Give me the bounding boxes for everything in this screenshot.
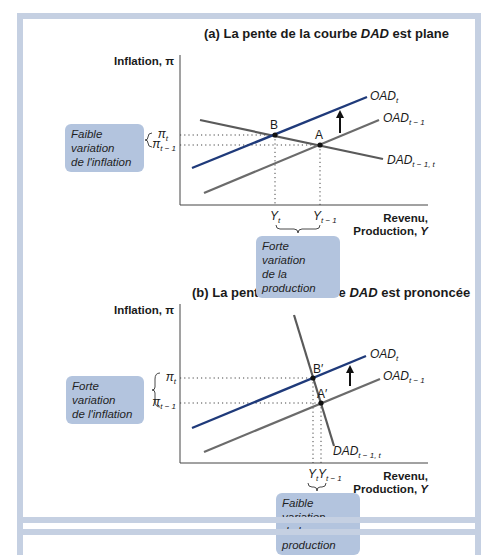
note-line: de la production bbox=[262, 267, 334, 295]
panel-b-production-brace bbox=[308, 483, 326, 491]
panel-b-arrow-head-icon bbox=[346, 365, 354, 373]
panel-b-point-a bbox=[318, 400, 323, 405]
panel-b-y-axis-label: Inflation, π bbox=[114, 304, 174, 316]
panel-a-point-b bbox=[272, 132, 277, 137]
panel-b-x-axis-label-1: Revenu, bbox=[383, 470, 428, 482]
panel-b-y-t1-tick: Yt − 1 bbox=[318, 467, 342, 483]
panel-b-oad-t1-label: OADt − 1 bbox=[383, 369, 425, 385]
panel-b-point-b bbox=[310, 375, 315, 380]
panel-b-inflation-note: Forte variation de l'inflation bbox=[66, 376, 144, 424]
panel-b: (b) La pente de la courbe DAD est pronon… bbox=[114, 285, 470, 495]
note-line: Faible variation bbox=[71, 127, 138, 155]
panel-a-oad-t1-label: OADt − 1 bbox=[383, 111, 425, 127]
panel-a-production-note: Forte variation de la production bbox=[256, 236, 340, 298]
panel-b-oad-t-label: OADt bbox=[370, 347, 399, 363]
panel-b-dad-curve bbox=[294, 315, 334, 446]
panel-a-inflation-note: Faible variation de l'inflation bbox=[65, 124, 144, 172]
panel-b-point-a-label: A′ bbox=[317, 387, 328, 401]
panel-a-arrow-head-icon bbox=[336, 110, 344, 118]
panel-a-point-a bbox=[317, 142, 322, 147]
panel-a-oad-t1-curve bbox=[204, 120, 379, 193]
panel-a-y-axis-label: Inflation, π bbox=[114, 55, 174, 67]
panel-a-inflation-brace bbox=[145, 133, 152, 147]
panel-a: (a) La pente de la courbe DAD est plane … bbox=[114, 26, 449, 237]
panel-b-dad-label: DADt − 1, t bbox=[333, 444, 382, 460]
panel-a-y-t-tick: Yt bbox=[270, 209, 281, 225]
panel-b-x-axis-label-2: Production, Y bbox=[353, 483, 429, 495]
panel-a-production-brace bbox=[276, 225, 320, 233]
panel-a-point-a-label: A bbox=[315, 128, 323, 142]
panel-b-point-b-label: B′ bbox=[313, 362, 324, 376]
note-line: de l'inflation bbox=[71, 155, 138, 169]
note-line: Forte variation bbox=[262, 239, 334, 267]
panel-a-dad-label: DADt − 1, t bbox=[387, 153, 436, 169]
panel-b-pi-t-tick: πt bbox=[166, 370, 177, 386]
panel-a-y-t1-tick: Yt − 1 bbox=[313, 209, 337, 225]
panel-b-oad-t1-curve bbox=[204, 379, 380, 452]
panel-b-pi-t1-tick: πt − 1 bbox=[152, 395, 176, 411]
next-frame-top-border bbox=[17, 529, 481, 535]
panel-b-oad-t-curve bbox=[192, 356, 366, 428]
panel-a-x-axis-label-1: Revenu, bbox=[383, 212, 428, 224]
panel-a-title: (a) La pente de la courbe DAD est plane bbox=[204, 26, 449, 41]
note-line: de l'inflation bbox=[72, 407, 138, 421]
panel-b-production-note: Faible variation de la production bbox=[276, 493, 360, 555]
frame-bottom-border bbox=[17, 517, 481, 523]
panel-a-point-b-label: B bbox=[270, 118, 278, 132]
panel-a-oad-t-label: OADt bbox=[370, 89, 399, 105]
note-line: Forte variation bbox=[72, 379, 138, 407]
panel-a-x-axis-label-2: Production, Y bbox=[353, 225, 429, 237]
